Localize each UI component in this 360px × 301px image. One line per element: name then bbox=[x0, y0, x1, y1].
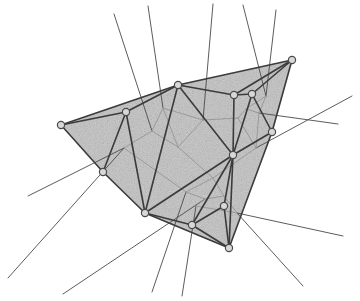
figure-canvas: left-apexupper-left-hubupper-midupper-ri… bbox=[0, 0, 360, 301]
site-vertex: top-right-apex bbox=[288, 56, 295, 63]
site-vertex: upper-mid bbox=[174, 81, 181, 88]
delaunay-voronoi-diagram: left-apexupper-left-hubupper-midupper-ri… bbox=[0, 0, 360, 301]
site-vertex: upper-right-inner bbox=[230, 91, 237, 98]
site-vertex: lower-mid bbox=[188, 221, 195, 228]
site-vertex: lower-right-inner bbox=[220, 202, 227, 209]
site-vertex: left-apex bbox=[57, 121, 64, 128]
site-vertex: left-lower bbox=[99, 168, 106, 175]
site-vertex: upper-left-hub bbox=[122, 108, 129, 115]
site-vertex: center-hub bbox=[229, 151, 236, 158]
delaunay-edge bbox=[233, 95, 234, 155]
site-vertex: right-mid bbox=[268, 128, 275, 135]
site-vertex: upper-right-small bbox=[248, 90, 255, 97]
site-vertex: bottom-apex bbox=[225, 244, 232, 251]
site-vertex: lower-left-hub bbox=[141, 209, 148, 216]
